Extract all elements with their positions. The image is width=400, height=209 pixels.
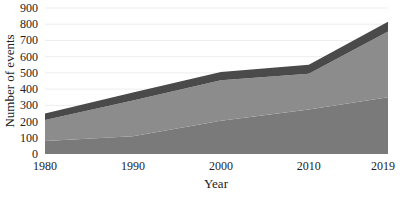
y-tick-label: 400 bbox=[20, 82, 38, 96]
x-tick-label: 1980 bbox=[33, 159, 57, 173]
x-tick-label: 2010 bbox=[297, 159, 321, 173]
y-tick-label: 800 bbox=[20, 17, 38, 31]
y-tick-label: 300 bbox=[20, 98, 38, 112]
x-tick-label: 2019 bbox=[371, 159, 395, 173]
x-axis-title: Year bbox=[204, 176, 229, 191]
y-axis-ticks: 0100200300400500600700800900 bbox=[20, 1, 38, 161]
area-layers bbox=[45, 22, 388, 154]
x-tick-label: 2000 bbox=[209, 159, 233, 173]
y-axis-title: Number of events bbox=[2, 34, 17, 127]
y-tick-label: 600 bbox=[20, 50, 38, 64]
y-tick-label: 200 bbox=[20, 115, 38, 129]
x-axis-ticks: 19801990200020102019 bbox=[33, 159, 395, 173]
y-tick-label: 700 bbox=[20, 33, 38, 47]
y-tick-label: 100 bbox=[20, 131, 38, 145]
y-tick-label: 500 bbox=[20, 66, 38, 80]
x-tick-label: 1990 bbox=[121, 159, 145, 173]
stacked-area-chart: 0100200300400500600700800900 19801990200… bbox=[0, 0, 400, 209]
y-tick-label: 900 bbox=[20, 1, 38, 15]
